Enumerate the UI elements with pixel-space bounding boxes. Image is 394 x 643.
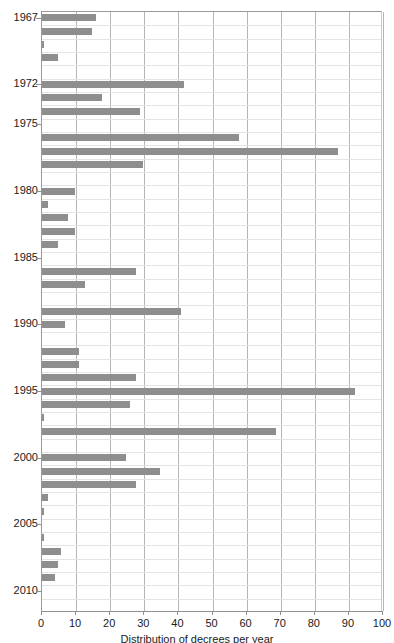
y-tick-label: 1995	[0, 385, 38, 396]
grid-line-horizontal	[42, 412, 381, 413]
bar	[42, 214, 68, 221]
x-tick-mark	[41, 611, 42, 615]
grid-line-vertical	[383, 12, 384, 611]
grid-line-horizontal	[42, 92, 381, 93]
bar	[42, 14, 96, 21]
bar	[42, 494, 48, 501]
grid-line-horizontal	[42, 212, 381, 213]
grid-line-horizontal	[42, 185, 381, 186]
y-tick-mark	[36, 258, 41, 259]
grid-line-horizontal	[42, 265, 381, 266]
bar	[42, 41, 44, 48]
grid-line-horizontal	[42, 559, 381, 560]
grid-line-horizontal	[42, 105, 381, 106]
grid-line-horizontal	[42, 292, 381, 293]
grid-line-horizontal	[42, 119, 381, 120]
bar	[42, 228, 75, 235]
grid-line-horizontal	[42, 279, 381, 280]
grid-line-horizontal	[42, 305, 381, 306]
x-tick-mark	[75, 611, 76, 615]
grid-line-horizontal	[42, 239, 381, 240]
bar	[42, 148, 338, 155]
bar	[42, 508, 44, 515]
grid-line-vertical	[315, 12, 316, 611]
grid-line-horizontal	[42, 39, 381, 40]
x-tick-mark	[212, 611, 213, 615]
y-tick-label: 1990	[0, 318, 38, 329]
x-tick-mark	[143, 611, 144, 615]
bar	[42, 361, 79, 368]
bar	[42, 388, 355, 395]
grid-line-vertical	[213, 12, 214, 611]
y-tick-label: 1972	[0, 78, 38, 89]
grid-line-horizontal	[42, 599, 381, 600]
bar	[42, 94, 102, 101]
x-tick-mark	[314, 611, 315, 615]
y-tick-mark	[36, 324, 41, 325]
grid-line-horizontal	[42, 25, 381, 26]
bar	[42, 534, 44, 541]
x-tick-mark	[348, 611, 349, 615]
x-tick-mark	[177, 611, 178, 615]
x-tick-mark	[280, 611, 281, 615]
grid-line-horizontal	[42, 319, 381, 320]
grid-line-horizontal	[42, 52, 381, 53]
grid-line-horizontal	[42, 345, 381, 346]
y-tick-label: 2010	[0, 585, 38, 596]
bar	[42, 468, 160, 475]
bar	[42, 108, 140, 115]
bar	[42, 201, 48, 208]
grid-line-vertical	[281, 12, 282, 611]
y-tick-label: 1975	[0, 118, 38, 129]
grid-line-horizontal	[42, 532, 381, 533]
bar	[42, 321, 65, 328]
grid-line-vertical	[349, 12, 350, 611]
grid-line-horizontal	[42, 492, 381, 493]
grid-line-horizontal	[42, 425, 381, 426]
bar	[42, 28, 92, 35]
grid-line-horizontal	[42, 465, 381, 466]
y-tick-mark	[36, 18, 41, 19]
y-tick-mark	[36, 391, 41, 392]
bar	[42, 414, 44, 421]
x-tick-mark	[109, 611, 110, 615]
grid-line-horizontal	[42, 332, 381, 333]
grid-line-horizontal	[42, 572, 381, 573]
y-tick-mark	[36, 458, 41, 459]
bar	[42, 548, 61, 555]
grid-line-horizontal	[42, 225, 381, 226]
bar-chart: 0102030405060708090100 19671972197519801…	[0, 0, 394, 643]
y-tick-mark	[36, 191, 41, 192]
bar	[42, 574, 55, 581]
bar	[42, 308, 181, 315]
grid-line-horizontal	[42, 505, 381, 506]
grid-line-horizontal	[42, 439, 381, 440]
y-tick-mark	[36, 124, 41, 125]
bar	[42, 134, 239, 141]
grid-line-horizontal	[42, 145, 381, 146]
bar	[42, 188, 75, 195]
y-tick-label: 1985	[0, 252, 38, 263]
grid-line-horizontal	[42, 359, 381, 360]
grid-line-horizontal	[42, 199, 381, 200]
grid-line-horizontal	[42, 172, 381, 173]
y-tick-mark	[36, 591, 41, 592]
bar	[42, 81, 184, 88]
y-tick-label: 2005	[0, 518, 38, 529]
bar	[42, 241, 58, 248]
grid-line-horizontal	[42, 545, 381, 546]
grid-line-horizontal	[42, 385, 381, 386]
bar	[42, 561, 58, 568]
bar	[42, 54, 58, 61]
y-tick-label: 2000	[0, 452, 38, 463]
grid-line-horizontal	[42, 452, 381, 453]
x-tick-mark	[382, 611, 383, 615]
grid-line-horizontal	[42, 519, 381, 520]
bar	[42, 374, 136, 381]
bar	[42, 161, 143, 168]
x-tick-label: 100	[362, 617, 394, 630]
grid-line-horizontal	[42, 252, 381, 253]
x-axis-title: Distribution of decrees per year	[0, 633, 394, 643]
bar	[42, 268, 136, 275]
grid-line-horizontal	[42, 372, 381, 373]
